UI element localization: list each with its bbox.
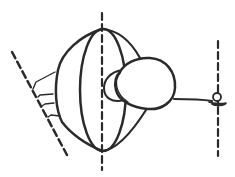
diagram-canvas	[0, 0, 235, 177]
tether-line	[174, 99, 212, 101]
bulb-shape	[115, 58, 175, 109]
diagram-drawing	[0, 0, 235, 177]
small-circle-anchor	[213, 93, 221, 101]
